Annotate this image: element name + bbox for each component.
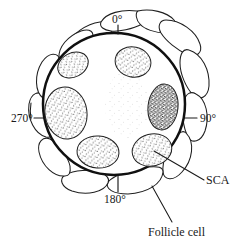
follicle-cell-leader-line bbox=[152, 186, 172, 222]
figure-root: 0° 90° 180° 270° SCA Follicle cell bbox=[0, 0, 249, 244]
axis-label-90-degree: 90° bbox=[200, 113, 216, 125]
callout-label-sca: SCA bbox=[206, 174, 229, 186]
axis-label-180-degree: 180° bbox=[104, 194, 126, 206]
cytoplasm-stipple-region bbox=[105, 71, 149, 139]
follicle-cell-lobe bbox=[159, 20, 201, 56]
axis-label-0-degree: 0° bbox=[112, 14, 122, 26]
axis-label-270-degree: 270° bbox=[11, 113, 33, 125]
callout-label-follicle-cell: Follicle cell bbox=[148, 226, 205, 238]
